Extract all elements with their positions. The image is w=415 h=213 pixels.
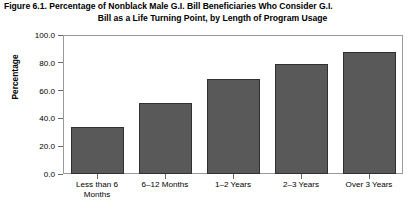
y-axis-tick-label: 0.0: [0, 170, 55, 179]
y-axis-tick-label: 100.0: [0, 31, 55, 40]
figure-title-line-1: Figure 6.1. Percentage of Nonblack Male …: [0, 1, 415, 13]
x-axis-tick: [301, 174, 302, 179]
y-axis-tick-label: 20.0: [0, 142, 55, 151]
x-axis-tick: [369, 174, 370, 179]
figure-title: Figure 6.1. Percentage of Nonblack Male …: [0, 1, 415, 24]
figure-title-line-2: Bill as a Life Turning Point, by Length …: [0, 13, 415, 25]
x-axis-tick-label: Less than 6 Months: [63, 180, 131, 200]
bar: [207, 79, 260, 174]
x-axis-tick-label: 2–3 Years: [267, 180, 335, 190]
y-axis-label: Percentage: [10, 32, 20, 122]
y-axis-tick-label: 40.0: [0, 114, 55, 123]
y-axis-tick-label: 60.0: [0, 86, 55, 95]
y-axis-tick: [58, 35, 63, 36]
x-axis-tick-label: 6–12 Months: [131, 180, 199, 190]
x-axis-tick: [165, 174, 166, 179]
y-axis-tick: [58, 90, 63, 91]
y-axis-tick: [58, 62, 63, 63]
bar: [71, 127, 124, 174]
x-axis-tick-label: 1–2 Years: [199, 180, 267, 190]
y-axis-tick: [58, 118, 63, 119]
bar: [343, 52, 396, 174]
y-axis-tick-label: 80.0: [0, 58, 55, 67]
y-axis-tick: [58, 174, 63, 175]
y-axis-tick: [58, 146, 63, 147]
figure-6-1: Figure 6.1. Percentage of Nonblack Male …: [0, 0, 415, 213]
x-axis-tick: [97, 174, 98, 179]
x-axis-tick: [233, 174, 234, 179]
bar: [139, 103, 192, 174]
x-axis-tick-label: Over 3 Years: [335, 180, 403, 190]
bar: [275, 64, 328, 174]
